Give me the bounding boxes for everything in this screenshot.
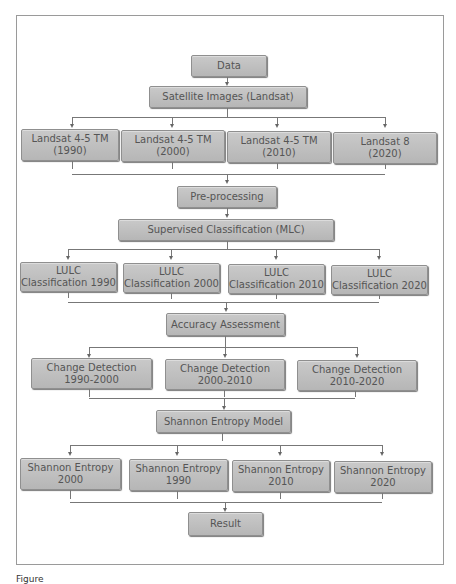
arrow-icon — [169, 256, 173, 260]
connector — [68, 249, 380, 250]
connector — [172, 162, 173, 169]
node-lulc-2020: LULC Classification 2020 — [331, 265, 428, 295]
connector — [277, 163, 278, 169]
node-change-detection-1990-2000: Change Detection 1990-2000 — [31, 358, 152, 389]
connector — [72, 117, 385, 118]
figure-caption: Figure — [16, 574, 43, 584]
node-lulc-2010: LULC Classification 2010 — [228, 264, 325, 294]
arrow-icon — [175, 452, 179, 456]
node-satellite-images: Satellite Images (Landsat) — [149, 86, 307, 108]
node-landsat-1990: Landsat 4-5 TM (1990) — [21, 129, 119, 161]
node-accuracy-assessment: Accuracy Assessment — [166, 313, 285, 336]
arrow-icon — [274, 256, 278, 260]
connector — [177, 491, 178, 499]
connector — [280, 492, 281, 499]
connector — [89, 398, 355, 399]
connector — [70, 502, 382, 503]
node-supervised-classification: Supervised Classification (MLC) — [118, 219, 334, 241]
arrow-icon — [224, 308, 228, 312]
connector — [355, 391, 356, 397]
node-pre-processing: Pre-processing — [177, 186, 277, 208]
connector — [89, 389, 90, 397]
connector — [379, 295, 380, 299]
connector — [70, 490, 71, 499]
connector — [222, 433, 223, 441]
arrow-icon — [380, 452, 384, 456]
arrow-icon — [170, 124, 174, 128]
connector — [224, 390, 225, 397]
connector — [382, 493, 383, 499]
arrow-icon — [383, 124, 387, 128]
node-data: Data — [191, 55, 267, 77]
node-shannon-entropy-model: Shannon Entropy Model — [156, 410, 291, 433]
arrow-icon — [225, 180, 229, 184]
connector — [72, 161, 73, 169]
node-shannon-entropy-1990: Shannon Entropy 1990 — [129, 459, 228, 491]
connector — [89, 347, 357, 348]
arrow-icon — [225, 214, 229, 218]
node-shannon-entropy-2020: Shannon Entropy 2020 — [334, 461, 432, 493]
connector — [68, 302, 379, 303]
arrow-icon — [68, 452, 72, 456]
node-change-detection-2010-2020: Change Detection 2010-2020 — [297, 360, 417, 391]
arrow-icon — [223, 354, 227, 358]
arrow-icon — [377, 256, 381, 260]
node-lulc-2000: LULC Classification 2000 — [123, 263, 220, 293]
connector — [68, 292, 69, 298]
node-landsat-2000: Landsat 4-5 TM (2000) — [121, 130, 225, 162]
connector — [385, 164, 386, 169]
connector — [72, 174, 385, 175]
node-change-detection-2000-2010: Change Detection 2000-2010 — [165, 359, 285, 390]
node-shannon-entropy-2010: Shannon Entropy 2010 — [232, 460, 330, 492]
node-landsat-2010: Landsat 4-5 TM (2010) — [227, 131, 331, 163]
arrow-icon — [70, 124, 74, 128]
arrow-icon — [355, 354, 359, 358]
connector — [276, 294, 277, 299]
arrow-icon — [278, 452, 282, 456]
node-shannon-entropy-2000: Shannon Entropy 2000 — [20, 458, 121, 490]
arrow-icon — [275, 124, 279, 128]
node-landsat-8-2020: Landsat 8 (2020) — [333, 132, 437, 164]
node-lulc-1990: LULC Classification 1990 — [20, 262, 117, 292]
node-result: Result — [188, 512, 263, 536]
connector — [227, 241, 228, 249]
connector — [70, 445, 382, 446]
arrow-icon — [66, 256, 70, 260]
connector — [171, 293, 172, 299]
